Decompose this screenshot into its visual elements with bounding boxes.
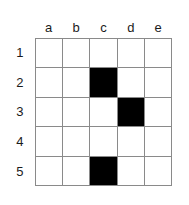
grid-cell-d1[interactable] [118, 39, 145, 68]
grid-cell-e3[interactable] [145, 98, 172, 127]
row-header-5: 5 [8, 156, 32, 186]
row-header-2: 2 [8, 68, 32, 98]
grid-cell-e4[interactable] [145, 127, 172, 156]
grid-cell-d5[interactable] [118, 157, 145, 186]
grid-cell-d2[interactable] [118, 68, 145, 97]
grid-cell-a1[interactable] [36, 39, 63, 68]
column-header-row: a b c d e [35, 19, 172, 37]
grid-cell-a5[interactable] [36, 157, 63, 186]
column-header-c: c [90, 19, 117, 37]
column-header-d: d [117, 19, 144, 37]
row-header-4: 4 [8, 127, 32, 157]
grid-cell-c2[interactable] [90, 68, 117, 97]
grid-cell-c3[interactable] [90, 98, 117, 127]
grid-cell-e1[interactable] [145, 39, 172, 68]
grid-cell-b1[interactable] [63, 39, 90, 68]
grid-cell-a4[interactable] [36, 127, 63, 156]
grid-cell-d4[interactable] [118, 127, 145, 156]
grid-cell-c5[interactable] [90, 157, 117, 186]
column-header-e: e [145, 19, 172, 37]
row-header-column: 1 2 3 4 5 [8, 38, 32, 186]
row-header-3: 3 [8, 97, 32, 127]
row-header-1: 1 [8, 38, 32, 68]
grid-cell-d3[interactable] [118, 98, 145, 127]
grid-cell-b2[interactable] [63, 68, 90, 97]
grid-puzzle-figure: a b c d e 1 2 3 4 5 [0, 0, 189, 205]
grid-cell-a2[interactable] [36, 68, 63, 97]
grid-cell-c1[interactable] [90, 39, 117, 68]
grid-cell-e2[interactable] [145, 68, 172, 97]
grid-cell-b4[interactable] [63, 127, 90, 156]
grid-cell-c4[interactable] [90, 127, 117, 156]
grid-cell-b3[interactable] [63, 98, 90, 127]
grid-cell-b5[interactable] [63, 157, 90, 186]
grid-body [35, 38, 172, 186]
column-header-a: a [35, 19, 62, 37]
grid-cell-e5[interactable] [145, 157, 172, 186]
column-header-b: b [62, 19, 89, 37]
grid-cell-a3[interactable] [36, 98, 63, 127]
